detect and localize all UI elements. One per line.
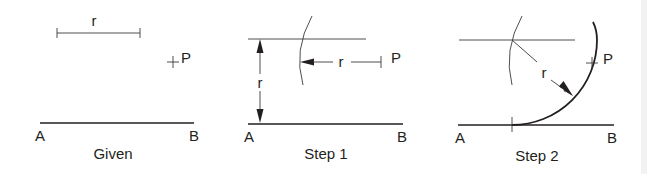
- arrow-down-icon: [257, 109, 264, 123]
- arrow-left-icon: [300, 59, 314, 66]
- radius-segment: r: [57, 12, 140, 38]
- horizontal-radius-dimension: r: [300, 53, 344, 70]
- tangent-arc: [512, 22, 597, 125]
- panel-step-2: r P A B Step 2: [455, 16, 617, 164]
- caption-given: Given: [93, 145, 132, 162]
- point-a-label: A: [244, 128, 254, 145]
- point-b-label: B: [607, 129, 617, 146]
- point-p-label: P: [391, 49, 401, 66]
- geometry-construction-diagram: r P A B Given r r: [0, 0, 647, 174]
- point-p: P: [167, 49, 191, 68]
- point-a-label: A: [35, 127, 45, 144]
- radius-label: r: [542, 64, 547, 81]
- point-b-label: B: [397, 128, 407, 145]
- point-p-label: P: [181, 49, 191, 66]
- arrow-up-icon: [257, 39, 264, 53]
- caption-step-2: Step 2: [515, 147, 558, 164]
- panel-step-1: r r P A B Step 1: [244, 16, 407, 162]
- radius-label: r: [92, 12, 97, 29]
- radius-line: [512, 40, 537, 62]
- radius-label-vertical: r: [258, 74, 263, 91]
- point-p-label: P: [603, 50, 613, 67]
- point-a-label: A: [455, 129, 465, 146]
- caption-step-1: Step 1: [304, 145, 347, 162]
- panel-given: r P A B Given: [35, 12, 199, 162]
- construction-arc: [509, 16, 522, 85]
- arrow-head-icon: [559, 81, 573, 96]
- arc-from-p: [300, 16, 312, 85]
- point-p: P: [381, 49, 401, 68]
- radius-label-horizontal: r: [339, 53, 344, 70]
- vertical-radius-dimension: r: [257, 39, 264, 123]
- point-p: P: [586, 50, 613, 69]
- point-b-label: B: [189, 127, 199, 144]
